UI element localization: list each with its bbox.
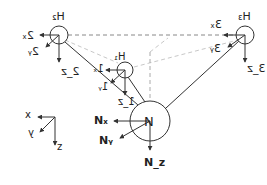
label-h3: H₃ [238, 10, 251, 23]
axis-z: z [57, 141, 62, 152]
label-h3z: 3_z [247, 62, 265, 75]
label-h1: H₁ [114, 51, 126, 62]
label-h2z: 2_z [61, 65, 79, 78]
label-h3x: 3ₓ [210, 18, 222, 31]
label-h1z: 1_z [118, 96, 135, 108]
molecule-diagram: H₂ H₃ H₁ N 2ₓ 2ᵧ 2_z 3ₓ 3ᵧ 3_z 1ₓ 1ᵧ 1_z… [0, 0, 267, 185]
label-h1x: 1ₓ [93, 63, 104, 74]
label-nx: Nₓ [94, 114, 108, 127]
label-nz: N_z [144, 156, 165, 169]
label-ny: Nᵧ [99, 134, 113, 147]
label-h2: H₂ [52, 10, 65, 23]
label-h2y: 2ᵧ [28, 45, 39, 58]
label-h2x: 2ₓ [22, 29, 34, 42]
axis-y: y [28, 127, 34, 138]
label-h3y: 3ᵧ [210, 42, 221, 55]
axis-x: x [25, 109, 31, 120]
label-n: N [144, 114, 154, 129]
label-h1y: 1ᵧ [98, 81, 108, 92]
